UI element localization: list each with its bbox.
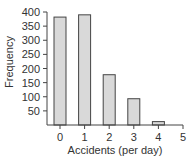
y-tick-label: 50 [28,105,40,117]
x-axis-label: Accidents (per day) [68,144,163,156]
y-axis-label: Frequency [3,36,15,88]
y-tick-label: 300 [22,34,40,46]
bar-4 [152,122,164,125]
x-axis: 012345 [47,125,186,143]
y-tick-label: 100 [22,91,40,103]
x-tick-label: 2 [106,131,112,143]
x-tick-label: 4 [155,131,161,143]
x-tick-label: 5 [180,131,186,143]
bar-1 [79,15,91,125]
bar-3 [128,99,140,125]
x-tick-label: 3 [131,131,137,143]
y-tick-label: 400 [22,6,40,18]
y-tick-label: 250 [22,48,40,60]
histogram-chart: 50100150200250300350400 012345 Frequency… [0,0,188,160]
bars-group [54,15,164,125]
x-tick-label: 1 [82,131,88,143]
x-tick-label: 0 [57,131,63,143]
bar-0 [54,17,66,125]
bar-2 [103,75,115,125]
y-tick-label: 150 [22,77,40,89]
y-tick-label: 200 [22,63,40,75]
y-axis: 50100150200250300350400 [22,6,47,125]
y-tick-label: 350 [22,20,40,32]
